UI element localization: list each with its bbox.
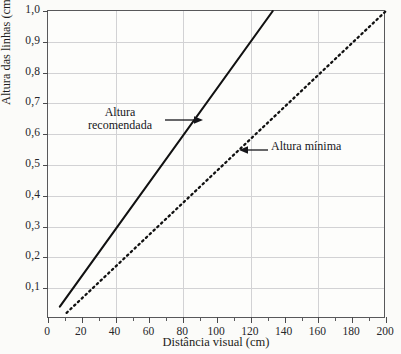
series-line-altura-minima xyxy=(67,11,386,313)
x-axis-title: Distância visual (cm) xyxy=(47,335,385,350)
y-axis-tick-label: 0,3 xyxy=(25,220,40,232)
y-axis-tick-label: 0,8 xyxy=(25,66,40,78)
annotation-altura-minima: Altura mínima xyxy=(271,140,341,153)
y-axis-title: Altura das linhas (cm) xyxy=(0,0,14,105)
y-axis-tick-label: 1,0 xyxy=(25,4,40,16)
y-axis-tick-label: 0,5 xyxy=(25,158,40,170)
y-axis-tick-label: 0,7 xyxy=(25,96,40,108)
y-axis-tick-label: 0,6 xyxy=(25,127,40,139)
y-axis-tick-label: 0,2 xyxy=(25,250,40,262)
chart-figure: 0,10,20,30,40,50,60,70,80,91,0 020406080… xyxy=(0,0,401,354)
data-series-layer xyxy=(48,11,386,319)
y-axis-tick-label: 0,4 xyxy=(25,189,40,201)
annotation-altura-recomendada: Altura recomendada xyxy=(78,106,162,133)
annotation-recomendada-line1: Altura xyxy=(78,106,162,119)
y-axis-tick-label: 0,9 xyxy=(25,35,40,47)
x-axis-tick xyxy=(386,317,387,323)
annotation-recomendada-line2: recomendada xyxy=(78,119,162,132)
y-axis-tick-label: 0,1 xyxy=(25,281,40,293)
series-line-altura-recomendada xyxy=(60,11,273,307)
plot-area xyxy=(47,10,385,318)
